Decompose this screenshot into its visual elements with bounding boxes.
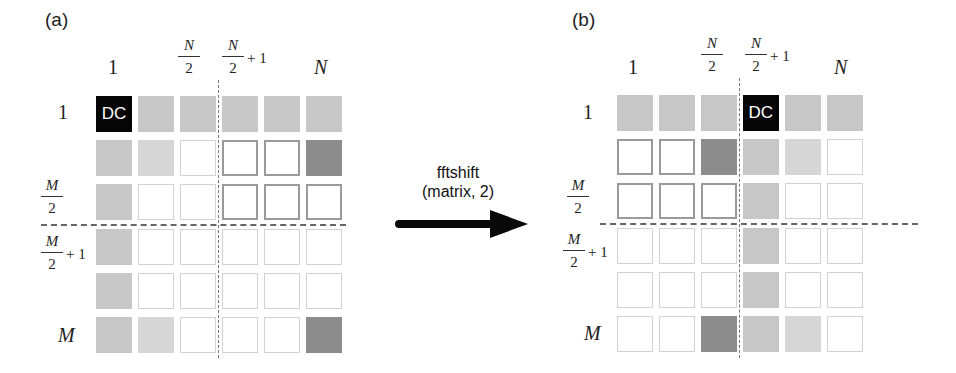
matrix-cell xyxy=(264,317,300,353)
matrix-cell xyxy=(306,96,342,132)
matrix-cell xyxy=(785,95,821,131)
matrix-cell xyxy=(138,229,174,265)
matrix-cell xyxy=(701,272,737,308)
matrix-cell xyxy=(306,273,342,309)
panel-b-horizontal-divider xyxy=(600,223,918,225)
matrix-cell xyxy=(617,272,653,308)
matrix-cell xyxy=(659,316,695,352)
matrix-cell xyxy=(617,95,653,131)
matrix-cell xyxy=(138,273,174,309)
arrow-label-line2: (matrix, 2) xyxy=(393,182,523,201)
matrix-cell xyxy=(701,228,737,264)
matrix-cell xyxy=(180,273,216,309)
matrix-cell xyxy=(180,184,216,220)
matrix-cell xyxy=(659,95,695,131)
matrix-cell xyxy=(222,184,258,220)
matrix-cell xyxy=(96,140,132,176)
panel-b-row-label-m: M xyxy=(584,322,601,345)
matrix-cell xyxy=(785,139,821,175)
panel-a-label: (a) xyxy=(45,9,68,31)
matrix-cell xyxy=(617,139,653,175)
matrix-cell xyxy=(701,183,737,219)
matrix-cell xyxy=(785,183,821,219)
matrix-cell xyxy=(659,228,695,264)
matrix-cell xyxy=(96,229,132,265)
matrix-cell xyxy=(827,316,863,352)
matrix-cell xyxy=(306,317,342,353)
matrix-cell xyxy=(222,273,258,309)
panel-a-row-label-m: M xyxy=(58,324,75,347)
panel-a-col-label-n: N xyxy=(314,56,327,79)
matrix-cell xyxy=(180,140,216,176)
matrix-cell xyxy=(617,316,653,352)
dc-cell: DC xyxy=(96,96,132,132)
matrix-cell xyxy=(264,229,300,265)
panel-a-col-label-n-half-plus-1: N 2 + 1 xyxy=(222,38,267,76)
matrix-cell xyxy=(264,140,300,176)
matrix-cell xyxy=(827,228,863,264)
dc-cell: DC xyxy=(743,95,779,131)
matrix-cell xyxy=(827,183,863,219)
matrix-cell xyxy=(617,183,653,219)
arrow-label: fftshift (matrix, 2) xyxy=(393,163,523,201)
panel-a-horizontal-divider xyxy=(41,224,346,226)
matrix-cell xyxy=(827,139,863,175)
matrix-cell xyxy=(306,184,342,220)
matrix-cell xyxy=(659,272,695,308)
matrix-cell xyxy=(264,96,300,132)
panel-b-col-label-1: 1 xyxy=(628,56,638,79)
matrix-cell xyxy=(743,183,779,219)
matrix-cell xyxy=(138,317,174,353)
panel-a-col-label-1: 1 xyxy=(108,56,118,79)
matrix-cell xyxy=(659,183,695,219)
matrix-cell xyxy=(96,317,132,353)
matrix-cell xyxy=(659,139,695,175)
matrix-cell xyxy=(785,272,821,308)
panel-b-row-label-1: 1 xyxy=(583,101,593,124)
matrix-cell xyxy=(180,96,216,132)
matrix-cell xyxy=(222,229,258,265)
panel-b-col-label-n-half: N 2 xyxy=(701,36,723,74)
matrix-cell xyxy=(701,95,737,131)
arrow-label-line1: fftshift xyxy=(393,163,523,182)
matrix-cell xyxy=(743,316,779,352)
matrix-cell xyxy=(138,96,174,132)
matrix-cell xyxy=(138,140,174,176)
right-arrow-icon xyxy=(394,205,530,243)
matrix-cell xyxy=(701,139,737,175)
matrix-cell xyxy=(743,228,779,264)
panel-b-vertical-divider xyxy=(739,78,740,358)
matrix-cell xyxy=(96,273,132,309)
panel-b-label: (b) xyxy=(572,9,595,31)
panel-b-row-label-m-half-plus-1: M 2 + 1 xyxy=(563,232,608,270)
panel-b-row-label-m-half: M 2 xyxy=(567,178,589,216)
panel-a-row-label-m-half-plus-1: M 2 + 1 xyxy=(41,234,86,272)
panel-b-col-label-n-half-plus-1: N 2 + 1 xyxy=(745,36,790,74)
matrix-cell xyxy=(785,316,821,352)
matrix-cell xyxy=(827,272,863,308)
matrix-cell xyxy=(617,228,653,264)
matrix-cell xyxy=(306,140,342,176)
matrix-cell xyxy=(138,184,174,220)
matrix-cell xyxy=(222,317,258,353)
matrix-cell xyxy=(827,95,863,131)
matrix-cell xyxy=(264,273,300,309)
matrix-cell xyxy=(743,272,779,308)
matrix-cell xyxy=(222,140,258,176)
matrix-cell xyxy=(180,229,216,265)
panel-b-col-label-n: N xyxy=(834,56,847,79)
panel-a-row-label-1: 1 xyxy=(58,101,68,124)
panel-a-row-label-m-half: M 2 xyxy=(41,178,63,216)
matrix-cell xyxy=(96,184,132,220)
matrix-cell xyxy=(701,316,737,352)
panel-a-vertical-divider xyxy=(218,80,219,358)
matrix-cell xyxy=(743,139,779,175)
matrix-cell xyxy=(222,96,258,132)
matrix-cell xyxy=(264,184,300,220)
matrix-cell xyxy=(306,229,342,265)
panel-a-col-label-n-half: N 2 xyxy=(178,38,200,76)
matrix-cell xyxy=(785,228,821,264)
matrix-cell xyxy=(180,317,216,353)
